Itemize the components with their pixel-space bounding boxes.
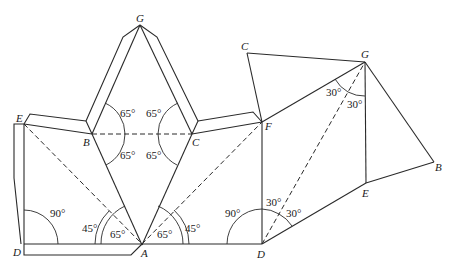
label-right-E: E	[361, 187, 369, 199]
angle-right-D-30a: 30°	[266, 196, 281, 208]
edge-GB	[365, 62, 434, 162]
label-right-B: B	[435, 161, 442, 173]
flap-EB	[24, 114, 86, 124]
label-left-C: C	[192, 136, 200, 148]
angle-CA-bottom: 65°	[146, 149, 161, 161]
label-left-G: G	[136, 12, 144, 24]
flap-DA	[24, 244, 142, 255]
angle-A-left-65: 65°	[110, 228, 125, 240]
fold-AF	[142, 122, 262, 244]
angle-labels: 65° 65° 65° 65° 90° 45° 65° 65° 45° 90° …	[50, 86, 362, 240]
angle-G-30b: 30°	[347, 98, 362, 110]
angle-BA-bottom: 65°	[120, 149, 135, 161]
angle-BG-top: 65°	[120, 107, 135, 119]
label-left-D: D	[12, 246, 21, 258]
angle-right-D-30b: 30°	[286, 207, 301, 219]
angle-left-D-90: 90°	[50, 207, 65, 219]
label-right-G: G	[361, 48, 369, 60]
angle-CG-top: 65°	[146, 107, 161, 119]
edge-CG	[247, 53, 365, 62]
point-labels: G E B C D A F D C G E B	[12, 12, 442, 260]
label-right-C: C	[241, 40, 249, 52]
angle-A-right-65: 65°	[157, 228, 172, 240]
label-F: F	[264, 120, 272, 132]
label-right-D: D	[256, 248, 265, 260]
edge-FC	[247, 53, 262, 122]
label-left-E: E	[15, 112, 23, 124]
angle-A-left-45: 45°	[82, 222, 97, 234]
edge-GE	[365, 62, 366, 183]
edge-FG	[262, 62, 365, 122]
angle-arcs	[24, 79, 365, 244]
edge-EB	[366, 162, 434, 183]
flap-CF	[198, 112, 262, 122]
flap-ED	[14, 124, 24, 244]
angle-A-right-45: 45°	[185, 222, 200, 234]
label-left-B: B	[83, 136, 90, 148]
edge-EB	[24, 124, 92, 134]
left-net	[14, 25, 262, 255]
fold-DG	[262, 62, 365, 244]
label-A: A	[140, 247, 148, 259]
angle-G-30a: 30°	[326, 86, 341, 98]
angle-right-D-90: 90°	[225, 207, 240, 219]
geometry-net-diagram: G E B C D A F D C G E B 65° 65° 65° 65° …	[0, 0, 453, 267]
